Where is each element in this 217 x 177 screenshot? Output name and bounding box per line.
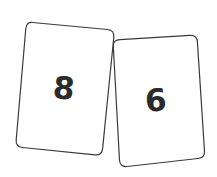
card-six-number: 6 xyxy=(144,84,168,116)
cards-scene xyxy=(0,0,217,177)
card-eight-number: 8 xyxy=(51,72,76,105)
